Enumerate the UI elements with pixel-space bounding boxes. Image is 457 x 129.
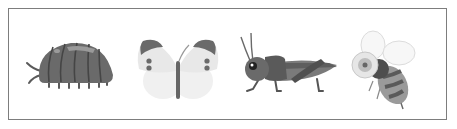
bee-icon <box>341 21 421 113</box>
insect-panel <box>8 8 447 120</box>
pill-bug-icon <box>19 35 119 93</box>
grasshopper-icon <box>237 29 345 101</box>
butterfly-icon <box>133 33 223 105</box>
